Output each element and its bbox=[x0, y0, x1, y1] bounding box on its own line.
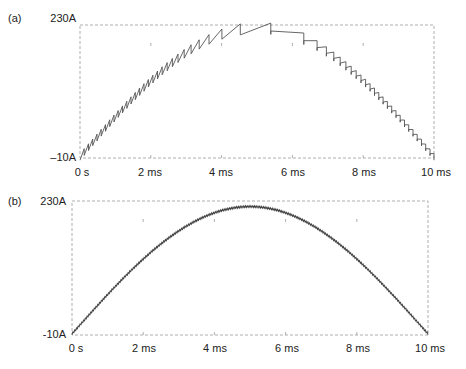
panel-a-trace bbox=[80, 23, 434, 160]
chart-canvas bbox=[0, 0, 466, 369]
panel-b-trace bbox=[72, 206, 428, 335]
panel-b-frame bbox=[72, 201, 428, 335]
panel-a-frame bbox=[80, 25, 434, 158]
